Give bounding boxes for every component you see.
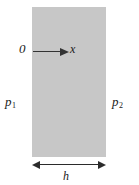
x-axis-arrowhead-icon	[60, 48, 69, 56]
x-axis-label: x	[70, 43, 75, 55]
dimension-line-shaft	[38, 164, 100, 165]
pressure-right-subscript: 2	[119, 101, 123, 110]
origin-label: 0	[19, 42, 26, 55]
physics-diagram: 0 x p1 p2 h	[0, 0, 139, 185]
pressure-left-symbol: p	[5, 94, 12, 109]
thickness-label: h	[63, 170, 69, 182]
thickness-dimension-line	[32, 160, 106, 169]
pressure-right-label: p2	[112, 95, 123, 108]
pressure-left-label: p1	[5, 95, 16, 108]
x-axis-arrow-shaft	[33, 51, 62, 52]
pressure-left-subscript: 1	[12, 101, 16, 110]
pressure-right-symbol: p	[112, 94, 119, 109]
x-axis-arrow	[33, 47, 69, 56]
fluid-slab-region	[32, 7, 106, 157]
dimension-arrowhead-right-icon	[98, 161, 106, 169]
